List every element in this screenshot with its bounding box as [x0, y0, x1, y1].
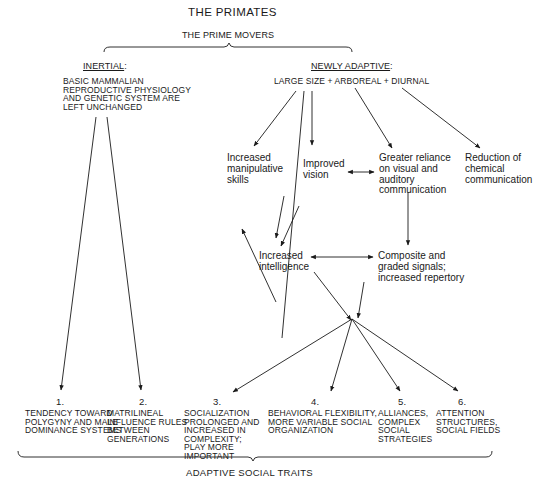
trait-3-text: SOCIALIZATION PROLONGED AND INCREASED IN…: [184, 409, 259, 460]
prime-movers-label: THE PRIME MOVERS: [182, 31, 274, 40]
node-manipulative-skills: Increased manipulative skills: [227, 153, 283, 185]
trait-4-text: BEHAVIORAL FLEXIBILITY, MORE VARIABLE SO…: [268, 409, 377, 435]
newly-adaptive-heading-text: NEWLY ADAPTIVE: [311, 61, 390, 71]
trait-4-number: 4.: [311, 397, 319, 407]
trait-2-number: 2.: [139, 397, 147, 407]
node-increased-intelligence: Increased intelligence: [259, 251, 309, 273]
node-visual-auditory-communication: Greater reliance on visual and auditory …: [379, 153, 451, 196]
inertial-heading-text: INERTIAL: [83, 61, 124, 71]
trait-5-text: ALLIANCES, COMPLEX SOCIAL STRATEGIES: [378, 409, 432, 443]
prime-movers-brace: [104, 43, 352, 52]
diagram-title: THE PRIMATES: [188, 7, 277, 19]
newly-adaptive-heading: NEWLY ADAPTIVE:: [311, 62, 393, 71]
inertial-description: BASIC MAMMALIAN REPRODUCTIVE PHYSIOLOGY …: [63, 77, 191, 112]
newly-adaptive-factors: LARGE SIZE + ARBOREAL + DIURNAL: [274, 77, 429, 86]
newly-adaptive-heading-colon: :: [390, 61, 393, 71]
trait-2-text: MATRILINEAL INFLUENCE RULES BETWEEN GENE…: [107, 409, 187, 443]
trait-1-number: 1.: [56, 397, 64, 407]
node-improved-vision: Improved vision: [303, 159, 345, 181]
trait-6-number: 6.: [458, 397, 466, 407]
node-chemical-communication: Reduction of chemical communication: [465, 153, 532, 185]
adaptive-social-traits-label: ADAPTIVE SOCIAL TRAITS: [186, 468, 313, 478]
trait-6-text: ATTENTION STRUCTURES, SOCIAL FIELDS: [436, 409, 500, 435]
trait-3-number: 3.: [213, 397, 221, 407]
node-composite-graded-signals: Composite and graded signals; increased …: [378, 251, 464, 283]
inertial-heading: INERTIAL:: [83, 62, 127, 71]
trait-5-number: 5.: [398, 397, 406, 407]
inertial-heading-colon: :: [124, 61, 127, 71]
